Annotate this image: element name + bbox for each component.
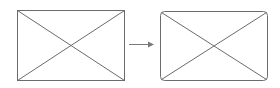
arrow-right-icon [129,42,154,48]
diagram-canvas [0,0,280,88]
square-corner-placeholder [18,11,125,81]
rounded-corner-placeholder [161,12,268,81]
